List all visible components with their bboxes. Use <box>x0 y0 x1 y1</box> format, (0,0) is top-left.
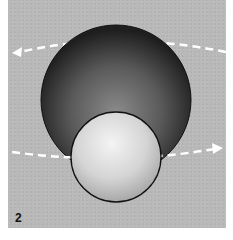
arrowhead-left-icon <box>12 47 22 57</box>
panel-number-label: 2 <box>15 211 22 225</box>
sphere-diagram <box>0 0 233 240</box>
arrowhead-right-icon <box>212 143 223 154</box>
small-light-sphere <box>71 112 161 202</box>
